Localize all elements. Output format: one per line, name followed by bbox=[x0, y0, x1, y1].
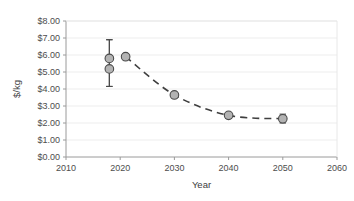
data-point-marker-0[interactable] bbox=[105, 54, 114, 63]
y-tick-label-0: $0.00 bbox=[37, 152, 60, 162]
chart-container: $0.00$1.00$2.00$3.00$4.00$5.00$6.00$7.00… bbox=[0, 0, 354, 201]
x-tick-label-5: 2060 bbox=[327, 163, 347, 173]
y-tick-label-8: $8.00 bbox=[37, 16, 60, 26]
data-point-marker-1[interactable] bbox=[105, 65, 114, 74]
x-tick-label-4: 2050 bbox=[273, 163, 293, 173]
data-point-marker-2[interactable] bbox=[121, 52, 130, 61]
y-tick-label-4: $4.00 bbox=[37, 84, 60, 94]
y-tick-label-5: $5.00 bbox=[37, 67, 60, 77]
y-tick-label-3: $3.00 bbox=[37, 101, 60, 111]
x-tick-label-0: 2010 bbox=[56, 163, 76, 173]
scatter-chart: $0.00$1.00$2.00$3.00$4.00$5.00$6.00$7.00… bbox=[0, 0, 354, 201]
data-point-marker-4[interactable] bbox=[224, 111, 233, 120]
data-point-marker-3[interactable] bbox=[170, 91, 179, 100]
y-tick-label-7: $7.00 bbox=[37, 33, 60, 43]
y-tick-label-6: $6.00 bbox=[37, 50, 60, 60]
y-tick-label-1: $1.00 bbox=[37, 135, 60, 145]
y-axis-title: $/kg bbox=[11, 80, 22, 98]
x-tick-label-3: 2040 bbox=[219, 163, 239, 173]
y-tick-label-2: $2.00 bbox=[37, 118, 60, 128]
x-tick-label-2: 2030 bbox=[164, 163, 184, 173]
x-axis-title: Year bbox=[192, 179, 211, 190]
data-point-marker-5[interactable] bbox=[279, 114, 288, 123]
x-tick-label-1: 2020 bbox=[110, 163, 130, 173]
